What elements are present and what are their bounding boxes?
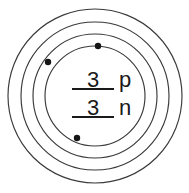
atom-diagram-canvas: 3 p 3 n (0, 0, 189, 193)
bohr-atom-diagram: 3 p 3 n (0, 0, 189, 193)
electron-dot-top (95, 43, 101, 49)
electron-dot-upper-left (45, 59, 51, 65)
electron-dot-bottom-left (74, 135, 80, 141)
neutron-symbol-label: n (119, 95, 131, 120)
proton-symbol-label: p (119, 67, 131, 92)
